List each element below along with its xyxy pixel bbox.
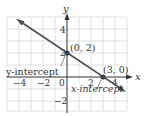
y-tick-4: 4 — [60, 25, 66, 35]
graph-canvas: y x −4 −2 0 2 4 4 2 −2 (0, 2) (3, 0) y-i… — [0, 0, 144, 116]
point-x-intercept — [100, 74, 105, 79]
point-label-0-2: (0, 2) — [70, 42, 96, 53]
line-graph — [16, 19, 126, 92]
x-axis-arrow-icon — [126, 75, 133, 80]
point-y-intercept — [64, 50, 69, 55]
y-tick-neg2: −2 — [54, 96, 67, 106]
y-axis-label: y — [62, 3, 69, 14]
x-intercept-label: x-intercept — [71, 83, 124, 94]
x-axis-label: x — [135, 71, 141, 82]
point-label-3-0: (3, 0) — [103, 64, 129, 75]
coordinate-graph: y x −4 −2 0 2 4 4 2 −2 (0, 2) (3, 0) y-i… — [0, 0, 144, 116]
y-intercept-label: y-intercept — [5, 66, 59, 77]
x-tick-neg4: −4 — [13, 78, 27, 88]
x-tick-neg2: −2 — [37, 78, 50, 88]
x-tick-0: 0 — [59, 78, 65, 88]
y-axis-arrow-icon — [65, 13, 70, 20]
